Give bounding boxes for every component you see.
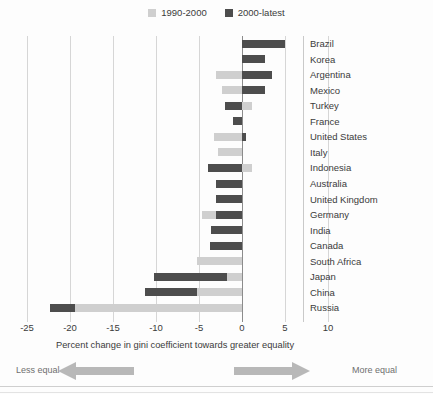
- chart-row: United Kingdom: [0, 192, 433, 208]
- x-tick-label: 0: [239, 322, 244, 333]
- chart-row: France: [0, 114, 433, 130]
- x-axis-ticks: -25-20-15-10-50510: [0, 322, 433, 338]
- chart-row: Argentina: [0, 67, 433, 83]
- bar-2000-latest: [233, 117, 242, 125]
- category-label: United Kingdom: [310, 193, 378, 206]
- chart-row: Italy: [0, 145, 433, 161]
- category-label: China: [310, 286, 335, 299]
- category-label: Brazil: [310, 37, 334, 50]
- bar-1990-2000: [242, 164, 252, 172]
- bar-2000-latest: [216, 195, 242, 203]
- bar-2000-latest: [216, 180, 242, 188]
- x-tick-label: -25: [20, 322, 34, 333]
- x-tick-label: -5: [195, 322, 203, 333]
- category-label: India: [310, 224, 331, 237]
- x-axis-title: Percent change in gini coefficient towar…: [30, 340, 320, 350]
- x-tick-label: -10: [149, 322, 163, 333]
- chart-legend: 1990-20002000-latest: [0, 8, 433, 18]
- bar-1990-2000: [222, 86, 242, 94]
- category-label: Italy: [310, 146, 327, 159]
- category-label: Canada: [310, 239, 343, 252]
- legend-swatch-dark: [225, 9, 233, 17]
- plot-area: BrazilKoreaArgentinaMexicoTurkeyFranceUn…: [0, 36, 433, 322]
- bar-2000-latest: [216, 211, 242, 219]
- bar-1990-2000: [50, 304, 242, 312]
- legend-label: 2000-latest: [238, 8, 285, 18]
- category-label: France: [310, 115, 340, 128]
- more-equal-label: More equal: [352, 365, 397, 375]
- bar-2000-latest: [242, 133, 246, 141]
- legend-label: 1990-2000: [161, 8, 206, 18]
- category-label: Indonesia: [310, 161, 351, 174]
- bar-2000-latest: [242, 86, 265, 94]
- bar-1990-2000: [214, 133, 242, 141]
- x-tick-label: 10: [323, 322, 334, 333]
- chart-row: Indonesia: [0, 160, 433, 176]
- bottom-divider-1: [0, 386, 433, 387]
- category-label: Korea: [310, 53, 335, 66]
- bar-2000-latest: [208, 164, 242, 172]
- x-tick-label: 5: [282, 322, 287, 333]
- legend-swatch-light: [148, 9, 156, 17]
- bar-2000-latest: [145, 288, 197, 296]
- direction-annotation: Less equal More equal: [0, 360, 433, 384]
- gini-change-bar-chart: 1990-20002000-latest BrazilKoreaArgentin…: [0, 0, 433, 394]
- category-label: Germany: [310, 208, 349, 221]
- chart-row: Brazil: [0, 36, 433, 52]
- category-label: Japan: [310, 270, 336, 283]
- bar-2000-latest: [225, 102, 242, 110]
- bar-2000-latest: [242, 40, 285, 48]
- bar-2000-latest: [154, 273, 226, 281]
- chart-row: Japan: [0, 269, 433, 285]
- chart-row: Turkey: [0, 98, 433, 114]
- bar-2000-latest: [50, 304, 75, 312]
- bar-1990-2000: [216, 71, 242, 79]
- category-label: Turkey: [310, 99, 339, 112]
- category-label: Russia: [310, 301, 339, 314]
- category-label: United States: [310, 130, 367, 143]
- chart-row: China: [0, 285, 433, 301]
- bar-1990-2000: [197, 257, 242, 265]
- chart-row: Germany: [0, 207, 433, 223]
- bar-1990-2000: [218, 148, 242, 156]
- category-label: South Africa: [310, 255, 361, 268]
- category-label: Mexico: [310, 84, 340, 97]
- arrow-right-icon: [234, 362, 310, 380]
- category-label: Australia: [310, 177, 347, 190]
- bar-1990-2000: [242, 102, 252, 110]
- bar-2000-latest: [210, 242, 242, 250]
- bottom-divider-2: [0, 392, 433, 393]
- x-tick-label: -20: [63, 322, 77, 333]
- chart-row: Canada: [0, 238, 433, 254]
- legend-entry: 2000-latest: [225, 8, 285, 18]
- chart-row: India: [0, 223, 433, 239]
- chart-row: South Africa: [0, 254, 433, 270]
- bar-2000-latest: [242, 55, 265, 63]
- chart-row: Australia: [0, 176, 433, 192]
- chart-row: Mexico: [0, 83, 433, 99]
- bar-2000-latest: [242, 71, 272, 79]
- chart-row: Korea: [0, 52, 433, 68]
- chart-row: Russia: [0, 300, 433, 316]
- chart-row: United States: [0, 129, 433, 145]
- x-tick-label: -15: [106, 322, 120, 333]
- less-equal-label: Less equal: [16, 365, 60, 375]
- legend-entry: 1990-2000: [148, 8, 206, 18]
- category-label: Argentina: [310, 68, 351, 81]
- arrow-left-icon: [58, 362, 134, 380]
- bar-2000-latest: [211, 226, 242, 234]
